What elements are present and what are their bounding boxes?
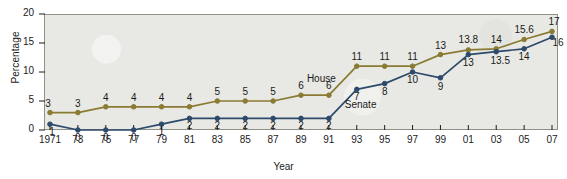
house-label-05: 15.6 <box>509 24 539 35</box>
senate-label-83: 2 <box>202 120 232 131</box>
chart-figure: Percentage 05101520 19717375777981838587… <box>0 0 567 179</box>
y-tick-20: 20 <box>8 7 34 18</box>
house-label-99: 13 <box>425 40 455 51</box>
senate-label-95: 8 <box>370 86 400 97</box>
senate-label-89: 2 <box>286 120 316 131</box>
senate-label-05: 14 <box>509 51 539 62</box>
house-label-97: 11 <box>398 51 428 62</box>
house-label-93: 11 <box>342 51 372 62</box>
senate-label-73: 0 <box>63 132 93 143</box>
senate-label-77: 0 <box>119 132 149 143</box>
house-label-03: 14 <box>481 34 511 45</box>
senate-label-97: 10 <box>398 74 428 85</box>
house-label-79: 4 <box>147 92 177 103</box>
senate-label-75: 0 <box>91 132 121 143</box>
x-axis-title: Year <box>0 161 567 172</box>
y-tick-15: 15 <box>8 36 34 47</box>
house-label-01: 13.8 <box>453 34 483 45</box>
house-label-77: 4 <box>119 92 149 103</box>
house-label-83: 5 <box>202 86 232 97</box>
senate-label-85: 2 <box>230 120 260 131</box>
series-annotation-house: House <box>307 73 336 84</box>
senate-label-01: 13 <box>453 57 483 68</box>
y-tick-10: 10 <box>8 65 34 76</box>
senate-label-87: 2 <box>258 120 288 131</box>
y-tick-0: 0 <box>8 123 34 134</box>
house-label-85: 5 <box>230 86 260 97</box>
senate-label-91: 2 <box>314 120 344 131</box>
house-label-07: 17 <box>539 16 567 27</box>
house-label-75: 4 <box>91 92 121 103</box>
x-tick-07: 07 <box>532 134 567 145</box>
senate-label-81: 2 <box>174 120 204 131</box>
y-tick-5: 5 <box>8 94 34 105</box>
senate-label-07: 16 <box>543 37 567 48</box>
house-label-1971: 3 <box>33 98 63 109</box>
series-annotation-senate: Senate <box>345 99 377 110</box>
house-label-87: 5 <box>258 86 288 97</box>
senate-label-99: 9 <box>425 81 455 92</box>
house-label-95: 11 <box>370 51 400 62</box>
house-label-81: 4 <box>174 92 204 103</box>
house-label-73: 3 <box>63 98 93 109</box>
senate-label-79: 1 <box>147 126 177 137</box>
